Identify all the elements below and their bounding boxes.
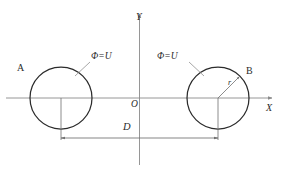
conductor-a-group xyxy=(30,62,92,140)
conductor-a-potential-leader xyxy=(75,62,90,76)
diagram-vector-layer xyxy=(0,0,289,173)
conductor-b-potential-leader xyxy=(189,62,204,76)
radius-label: r xyxy=(228,79,231,87)
conductor-a-label: A xyxy=(17,63,24,73)
conductor-b-label: B xyxy=(246,66,253,76)
conductor-b-potential-label: Φ=U xyxy=(157,52,178,62)
conductor-b-group xyxy=(187,62,249,140)
separation-label: D xyxy=(123,122,131,133)
conductor-a-potential-label: Φ=U xyxy=(91,52,112,62)
axis-group xyxy=(6,14,272,165)
origin-label: O xyxy=(131,100,138,110)
x-axis-label: X xyxy=(266,103,272,113)
figure-canvas: Y X O A B Φ=U Φ=U r D xyxy=(0,0,289,173)
y-axis-label: Y xyxy=(136,12,142,22)
